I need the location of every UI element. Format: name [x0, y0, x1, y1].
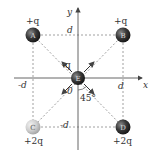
- charge-b-value: +q: [114, 16, 128, 26]
- charge-b-letter: B: [120, 32, 125, 40]
- charge-e-letter: E: [75, 75, 80, 83]
- distance-label-bottom: -d: [60, 120, 69, 130]
- x-axis-label: x: [143, 80, 148, 90]
- distance-label-top: d: [67, 25, 73, 35]
- charge-c-letter: C: [30, 124, 35, 132]
- charge-diagram: x y 0 d d -d -d 45° E -q A +q B +q C +2q…: [0, 0, 156, 157]
- distance-label-left: -d: [18, 80, 27, 90]
- angle-label: 45°: [80, 93, 96, 103]
- charge-d-value: +2q: [113, 136, 132, 146]
- charge-c-value: +2q: [24, 136, 43, 146]
- charge-d-letter: D: [120, 124, 126, 132]
- charge-a-value: +q: [26, 16, 40, 26]
- charge-a-letter: A: [29, 32, 36, 40]
- charge-e-value: -q: [62, 60, 71, 70]
- y-axis-label: y: [66, 7, 73, 17]
- distance-label-right: d: [118, 81, 124, 91]
- angle-arc: [78, 87, 87, 91]
